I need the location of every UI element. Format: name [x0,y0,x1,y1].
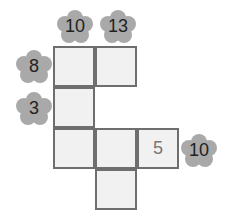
row-clue-flower: 3 [16,91,52,125]
grid-cell[interactable] [53,87,95,128]
row-clue-flower: 10 [181,133,217,167]
grid-cell[interactable] [53,46,95,87]
row-clue-flower: 8 [16,49,52,83]
grid-cell-given: 5 [137,128,179,169]
column-clue-value: 10 [57,9,93,43]
row-clue-value: 8 [16,49,52,83]
grid-cell[interactable] [95,169,137,210]
grid-cell[interactable] [95,46,137,87]
column-clue-flower: 13 [100,9,136,43]
grid-cell[interactable] [95,128,137,169]
column-clue-value: 13 [100,9,136,43]
grid-cell[interactable] [53,128,95,169]
row-clue-value: 3 [16,91,52,125]
row-clue-value: 10 [181,133,217,167]
column-clue-flower: 10 [57,9,93,43]
